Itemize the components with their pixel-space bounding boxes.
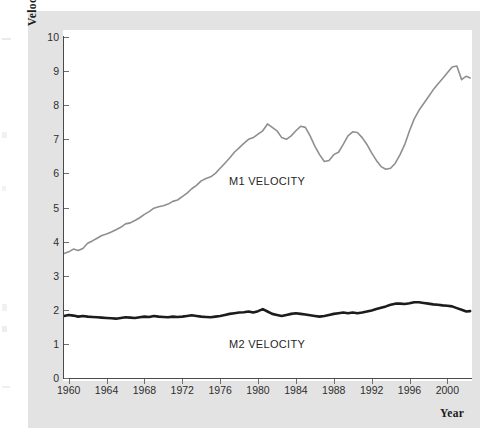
y-tick-label: 1 [33,339,59,350]
y-tick-label: 3 [33,271,59,282]
y-tick [64,139,69,140]
y-tick [64,242,69,243]
y-tick [64,71,69,72]
series-line-m1 [64,66,470,254]
y-tick [64,310,69,311]
figure-root: 012345678910 196019641968197219761980198… [0,0,504,440]
y-tick-label: 7 [33,134,59,145]
y-tick [64,173,69,174]
y-tick-label: 2 [33,305,59,316]
series-canvas [63,30,472,381]
y-axis-title: Velocity [26,0,38,26]
y-tick [64,105,69,106]
y-tick-label: 10 [33,32,59,43]
x-tick-label: 2000 [425,385,469,396]
y-tick [64,37,69,38]
y-tick-label: 9 [33,66,59,77]
page-bleed-mark [2,186,6,191]
page-bleed-mark [2,132,7,138]
series-line-m2 [64,302,470,318]
y-tick [64,276,69,277]
page-bleed-mark [2,386,10,388]
y-tick-label: 6 [33,168,59,179]
y-tick-label: 0 [33,373,59,384]
page-bleed-mark [2,304,7,311]
y-tick [64,208,69,209]
y-tick-label: 4 [33,237,59,248]
page-bleed-mark [2,326,7,332]
y-tick-label: 8 [33,100,59,111]
x-axis-line [63,378,472,379]
series-label-m1: M1 VELOCITY [229,175,305,187]
y-tick [64,344,69,345]
series-label-m2: M2 VELOCITY [229,338,305,350]
y-tick-label: 5 [33,203,59,214]
x-axis-title: Year [440,407,464,419]
page-bleed-mark [2,38,11,40]
